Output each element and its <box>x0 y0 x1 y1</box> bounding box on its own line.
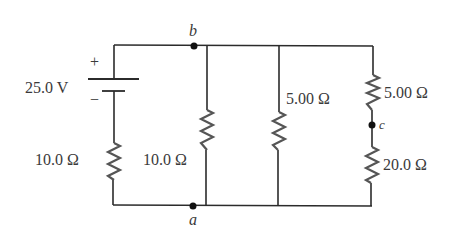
battery-minus-sign: − <box>90 92 99 108</box>
node-a-label: a <box>189 212 197 228</box>
resistor-r1-label: 10.0 Ω <box>35 152 79 168</box>
node-c-dot <box>369 122 376 129</box>
resistor-r3-icon <box>273 112 285 150</box>
node-b-dot <box>191 43 198 50</box>
resistor-r4-label: 5.00 Ω <box>384 85 428 101</box>
circuit-diagram <box>0 0 465 237</box>
battery-plus-sign: + <box>90 54 99 70</box>
resistor-r5-icon <box>366 147 378 183</box>
node-a-dot <box>190 203 197 210</box>
resistor-r3-label: 5.00 Ω <box>286 91 330 107</box>
node-b-label: b <box>189 23 197 39</box>
wires <box>113 45 373 206</box>
battery <box>88 79 139 91</box>
resistor-r1-icon <box>108 143 120 180</box>
battery-voltage-label: 25.0 V <box>25 80 68 96</box>
node-c-label: c <box>379 118 385 131</box>
resistor-r5-label: 20.0 Ω <box>383 157 427 173</box>
resistor-r2-icon <box>201 110 213 150</box>
resistor-r4-icon <box>367 75 379 110</box>
resistor-r2-label: 10.0 Ω <box>143 152 187 168</box>
